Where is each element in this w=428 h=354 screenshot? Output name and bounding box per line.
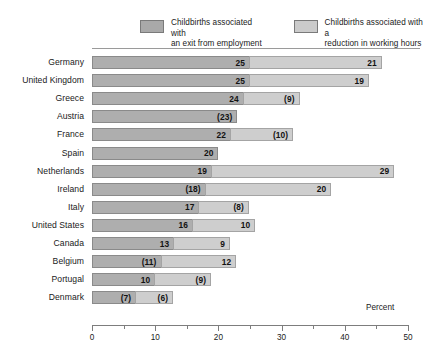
x-axis-minor-tick [250,325,251,329]
stacked-bar: 22(10) [92,128,293,141]
bar-value-label: 24 [229,94,243,104]
bar-value-label: 13 [160,239,174,249]
bar-value-label: (8) [233,202,248,212]
bar-value-label: (23) [217,112,236,122]
chart-row: Spain20 [0,147,428,165]
stacked-bar: (23) [92,110,237,123]
category-label: Portugal [0,273,84,286]
bar-value-label: 22 [217,130,231,140]
bar-segment-series-1: (7) [92,291,136,304]
category-label: Netherlands [0,165,84,178]
x-axis-minor-tick [124,325,125,329]
x-axis-tick-label: 0 [90,333,95,342]
bar-segment-series-2: 12 [161,255,237,268]
x-axis-major-tick [408,325,409,331]
bar-segment-series-2: 21 [249,56,382,69]
bar-value-label: 10 [141,275,155,285]
category-label: Greece [0,92,84,105]
x-axis-minor-tick [376,325,377,329]
x-axis-title: Percent [366,303,394,312]
x-axis-tick-label: 40 [340,333,349,342]
category-label: Austria [0,110,84,123]
bar-value-label: (11) [142,257,161,267]
bar-value-label: 17 [185,202,199,212]
bar-segment-series-2: 9 [173,237,230,250]
bar-value-label: 20 [204,148,218,158]
bar-segment-series-2: (10) [230,128,293,141]
x-axis-minor-tick [187,325,188,329]
category-label: Ireland [0,183,84,196]
x-axis-major-tick [218,325,219,331]
category-label: United Kingdom [0,74,84,87]
bar-segment-series-2: (6) [135,291,173,304]
bar-segment-series-1: (11) [92,255,162,268]
bar-segment-series-1: 25 [92,74,250,87]
bar-value-label: 19 [198,166,212,176]
stacked-bar: 2519 [92,74,369,87]
chart-row: Netherlands1929 [0,165,428,183]
bar-segment-series-1: (18) [92,183,206,196]
bar-value-label: 16 [179,220,193,230]
bar-segment-series-1: 10 [92,273,155,286]
bar-segment-series-1: 22 [92,128,231,141]
stacked-bar: 20 [92,147,218,160]
bar-segment-series-2: (8) [198,201,249,214]
x-axis-major-tick [282,325,283,331]
bar-value-label: 10 [241,220,255,230]
chart-legend: Childbirths associated with an exit from… [140,18,428,50]
category-label: Denmark [0,291,84,304]
chart-row: France22(10) [0,128,428,146]
bar-value-label: (7) [121,293,136,303]
stacked-bar: 1610 [92,219,255,232]
legend-swatch-icon [140,20,164,33]
legend-label: Childbirths associated with an exit from… [171,18,268,50]
bar-segment-series-1: 17 [92,201,199,214]
bar-segment-series-2: 29 [211,165,394,178]
x-axis-tick-label: 30 [277,333,286,342]
stacked-bar: 1929 [92,165,394,178]
chart-row: Ireland(18)20 [0,183,428,201]
legend-item-1: Childbirths associated with an exit from… [140,18,268,50]
x-axis-minor-tick [313,325,314,329]
x-axis-major-tick [155,325,156,331]
stacked-bar-chart: Childbirths associated with an exit from… [0,0,428,354]
bar-value-label: (6) [158,293,173,303]
bar-segment-series-1: 13 [92,237,174,250]
bar-value-label: 19 [355,76,369,86]
bar-segment-series-1: (23) [92,110,237,123]
category-label: Belgium [0,255,84,268]
bar-value-label: 21 [367,58,381,68]
bar-segment-series-1: 20 [92,147,218,160]
stacked-bar: (11)12 [92,255,236,268]
bar-value-label: 25 [235,76,249,86]
bar-segment-series-1: 16 [92,219,193,232]
plot-area: Germany2521United Kingdom2519Greece24(9)… [0,56,428,314]
bar-value-label: (9) [196,275,211,285]
category-label: United States [0,219,84,232]
stacked-bar: 17(8) [92,201,249,214]
bar-segment-series-2: 10 [192,219,255,232]
chart-row: Austria(23) [0,110,428,128]
category-label: Germany [0,56,84,69]
chart-row: Denmark(7)(6) [0,291,428,309]
chart-row: United Kingdom2519 [0,74,428,92]
stacked-bar: 2521 [92,56,382,69]
chart-row: Germany2521 [0,56,428,74]
bar-segment-series-1: 19 [92,165,212,178]
chart-row: Portugal10(9) [0,273,428,291]
category-label: France [0,128,84,141]
header-divider [92,48,420,49]
x-axis-tick-label: 20 [214,333,223,342]
chart-row: Belgium(11)12 [0,255,428,273]
chart-row: Italy17(8) [0,201,428,219]
stacked-bar: 10(9) [92,273,211,286]
bar-value-label: (10) [273,130,292,140]
stacked-bar: 139 [92,237,230,250]
stacked-bar: (18)20 [92,183,331,196]
bar-value-label: 25 [235,58,249,68]
chart-row: Greece24(9) [0,92,428,110]
chart-row: United States1610 [0,219,428,237]
legend-swatch-icon [294,20,318,33]
bar-value-label: 9 [220,239,229,249]
bar-segment-series-2: (9) [154,273,211,286]
